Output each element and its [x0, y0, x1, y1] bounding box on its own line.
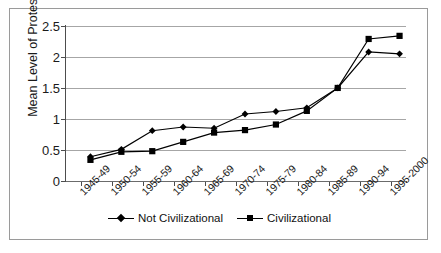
- data-point-1985-89: [335, 85, 341, 91]
- data-point-1950-54: [118, 149, 124, 155]
- data-point-1960-64: [180, 124, 187, 131]
- legend-label: Civilizational: [267, 212, 331, 224]
- series-civilizational: [87, 33, 402, 163]
- series-not-civilizational: [87, 49, 403, 161]
- series-line: [90, 52, 399, 157]
- data-point-1970-74: [242, 111, 249, 118]
- data-point-1955-59: [149, 148, 155, 154]
- chart-legend: Not CivilizationalCivilizational: [10, 212, 429, 224]
- legend-entry-civilizational[interactable]: Civilizational: [237, 212, 331, 224]
- series-line: [90, 36, 399, 160]
- data-point-1995-2000: [396, 50, 403, 57]
- chart-frame: Mean Level of Protest 00.511.522.5 1945-…: [9, 8, 428, 240]
- data-point-1995-2000: [396, 33, 402, 39]
- data-point-1975-79: [273, 121, 279, 127]
- data-point-1980-84: [304, 108, 310, 114]
- data-point-1970-74: [242, 127, 248, 133]
- data-point-1955-59: [149, 127, 156, 134]
- data-point-1960-64: [180, 139, 186, 145]
- data-point-1975-79: [273, 108, 280, 115]
- data-point-1965-69: [211, 129, 217, 135]
- legend-label: Not Civilizational: [138, 212, 223, 224]
- legend-entry-not-civilizational[interactable]: Not Civilizational: [108, 212, 223, 224]
- data-point-1945-49: [87, 157, 93, 163]
- data-point-1990-94: [366, 36, 372, 42]
- legend-diamond-icon: [108, 214, 134, 223]
- legend-square-icon: [237, 214, 263, 223]
